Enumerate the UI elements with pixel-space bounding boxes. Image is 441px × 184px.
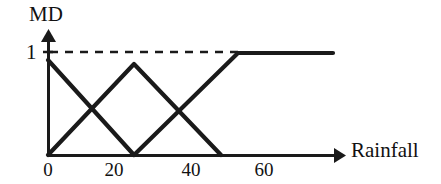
x-tick-label-20: 20 [100,160,128,179]
x-axis-title: Rainfall [351,140,419,161]
x-tick-label-0: 0 [36,160,60,179]
y-axis-title: MD [29,4,63,25]
y-axis-arrowhead [41,29,56,42]
fuzzy-membership-chart: MD 1 Rainfall 0 20 40 60 [0,0,441,184]
x-tick-label-60: 60 [250,160,278,179]
x-axis-arrowhead [334,148,346,163]
series-high-ascending-line [134,53,333,155]
y-tick-label-1: 1 [26,42,37,63]
x-tick-label-40: 40 [177,160,205,179]
series-medium-triangular-line [48,64,221,155]
